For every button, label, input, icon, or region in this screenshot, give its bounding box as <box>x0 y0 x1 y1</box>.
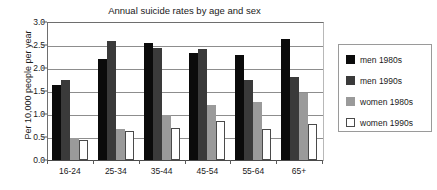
legend-item[interactable]: men 1980s <box>346 54 402 65</box>
bar <box>107 41 116 160</box>
bar <box>216 121 225 160</box>
chart-title: Annual suicide rates by age and sex <box>47 5 322 16</box>
bar <box>52 85 61 160</box>
legend-label: women 1980s <box>360 97 413 107</box>
bar <box>308 124 317 160</box>
bar <box>98 59 107 160</box>
legend-label: men 1990s <box>360 76 402 86</box>
bar <box>144 43 153 160</box>
bar-group <box>281 22 317 160</box>
x-tick-mark <box>93 160 94 164</box>
y-tick-label: 2.5 <box>7 40 45 50</box>
bar <box>281 39 290 160</box>
bar <box>171 128 180 160</box>
bar <box>262 129 271 160</box>
x-tick-mark <box>276 160 277 164</box>
y-tick-label: 3.0 <box>7 17 45 27</box>
bar-group <box>189 22 225 160</box>
bar <box>61 80 70 161</box>
x-tick-mark <box>230 160 231 164</box>
bar <box>235 55 244 160</box>
x-tick-mark <box>47 160 48 164</box>
bar <box>207 105 216 160</box>
x-tick-mark <box>322 160 323 164</box>
bar <box>162 115 171 160</box>
bar <box>153 48 162 160</box>
bar <box>198 49 207 160</box>
bar-group <box>144 22 180 160</box>
legend-label: men 1980s <box>360 55 402 65</box>
bar <box>116 129 125 160</box>
bar <box>290 77 299 160</box>
bar <box>79 140 88 160</box>
bar <box>70 138 79 160</box>
x-tick-mark <box>185 160 186 164</box>
y-axis-ticks: 0.00.51.01.52.02.53.0 <box>0 0 45 190</box>
y-tick-label: 1.0 <box>7 109 45 119</box>
legend-swatch-icon <box>346 76 355 85</box>
y-tick-label: 1.5 <box>7 86 45 96</box>
bar <box>253 102 262 160</box>
legend-swatch-icon <box>346 97 355 106</box>
y-tick-label: 0.0 <box>7 155 45 165</box>
bar-group <box>235 22 271 160</box>
chart-legend: men 1980smen 1990swomen 1980swomen 1990s <box>338 44 432 132</box>
legend-item[interactable]: women 1990s <box>346 117 413 128</box>
x-tick-label: 65+ <box>269 166 329 176</box>
bar <box>244 80 253 160</box>
legend-item[interactable]: men 1990s <box>346 75 402 86</box>
legend-swatch-icon <box>346 118 355 127</box>
bar <box>125 131 134 160</box>
bar <box>299 93 308 160</box>
legend-item[interactable]: women 1980s <box>346 96 413 107</box>
x-tick-mark <box>139 160 140 164</box>
y-tick-label: 2.0 <box>7 63 45 73</box>
legend-swatch-icon <box>346 55 355 64</box>
chart-figure: Annual suicide rates by age and sex Per … <box>0 0 437 190</box>
bar-group <box>98 22 134 160</box>
legend-label: women 1990s <box>360 118 413 128</box>
y-tick-label: 0.5 <box>7 132 45 142</box>
bar <box>189 53 198 160</box>
bar-group <box>52 22 88 160</box>
